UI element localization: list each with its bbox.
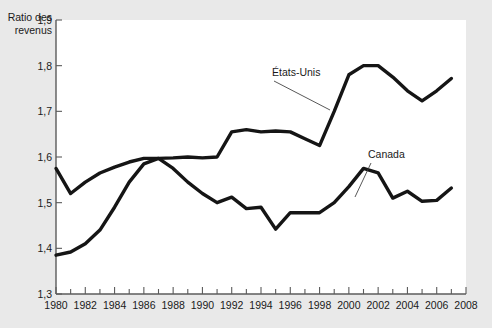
x-tick-label: 1984: [103, 299, 127, 311]
y-axis-title-line2: revenus: [15, 24, 52, 36]
y-tick-label: 1,5: [37, 197, 52, 209]
x-tick-label: 1980: [44, 299, 68, 311]
y-tick-label: 1,6: [37, 151, 52, 163]
y-tick-label: 1,4: [37, 242, 52, 254]
x-tick-label: 2002: [366, 299, 390, 311]
x-tick-label: 1988: [161, 299, 185, 311]
chart-container: 1,31,41,51,61,71,81,9 Ratio des revenus …: [0, 0, 492, 328]
x-tick-label: 1982: [74, 299, 98, 311]
y-axis: 1,31,41,51,61,71,81,9 Ratio des revenus: [8, 11, 62, 300]
x-tick-label: 2008: [454, 299, 478, 311]
x-tick-label: 1986: [132, 299, 156, 311]
y-axis-title-line1: Ratio des: [8, 11, 52, 23]
x-tick-label: 1998: [308, 299, 332, 311]
x-tick-label: 2000: [337, 299, 361, 311]
line-chart: 1,31,41,51,61,71,81,9 Ratio des revenus …: [0, 0, 492, 328]
x-tick-label: 1990: [191, 299, 215, 311]
annotation-label-canada: Canada: [368, 148, 405, 160]
x-tick-label: 1994: [249, 299, 273, 311]
y-tick-label: 1,8: [37, 60, 52, 72]
x-tick-label: 2004: [396, 299, 420, 311]
x-tick-label: 1996: [279, 299, 303, 311]
annotation-label-tats-unis: États-Unis: [272, 66, 320, 78]
y-tick-label: 1,7: [37, 105, 52, 117]
x-tick-label: 1992: [220, 299, 244, 311]
x-tick-label: 2006: [425, 299, 449, 311]
